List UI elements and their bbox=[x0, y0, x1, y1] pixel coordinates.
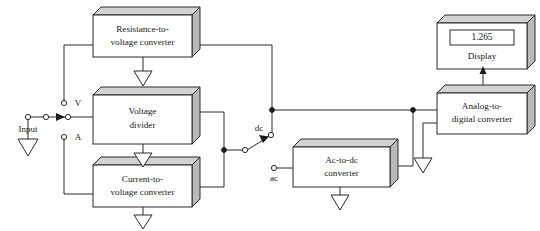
label-switch-ac: ac bbox=[270, 173, 278, 183]
display-reading: 1.265 bbox=[471, 32, 492, 42]
ac-contact[interactable] bbox=[271, 165, 276, 170]
block-label-line1: Voltage bbox=[129, 106, 157, 116]
junction-dot-divider-converter-merge bbox=[222, 148, 227, 153]
block-label-line2: converter bbox=[324, 168, 359, 178]
block-top-face bbox=[93, 7, 200, 15]
junction-dot-dc-bus bbox=[270, 108, 275, 113]
dc-ac-selector-switch[interactable] bbox=[242, 132, 276, 170]
wire-adc-ground-lead bbox=[423, 123, 437, 158]
label-input: Input bbox=[19, 124, 38, 134]
label-terminal-v: V bbox=[75, 98, 82, 108]
block-ac-to-dc-converter[interactable]: Ac-to-dc converter bbox=[293, 139, 398, 187]
junction-dot-acdc-bus bbox=[411, 108, 416, 113]
terminal-contact-a[interactable] bbox=[61, 134, 66, 139]
block-label-line2: divider bbox=[129, 120, 155, 130]
block-display[interactable]: 1.265 Display bbox=[437, 15, 535, 69]
multimeter-block-diagram: Resistance-to- voltage converter Voltage… bbox=[0, 0, 540, 231]
block-side-face bbox=[192, 87, 200, 144]
block-front-face bbox=[293, 147, 390, 187]
ground-symbol-input bbox=[18, 139, 38, 156]
block-front-face bbox=[93, 15, 192, 57]
ground-triangle bbox=[134, 215, 152, 229]
block-label-line2: voltage converter bbox=[110, 187, 174, 197]
block-side-face bbox=[192, 157, 200, 207]
block-top-face bbox=[437, 85, 535, 93]
ground-symbol-acdc-converter bbox=[331, 195, 349, 210]
selector-blade-arrow bbox=[56, 113, 65, 121]
block-voltage-divider[interactable]: Voltage divider bbox=[93, 87, 200, 144]
ground-symbol-adc bbox=[414, 158, 432, 173]
block-side-face bbox=[192, 7, 200, 57]
block-label-line1: Current-to- bbox=[122, 174, 163, 184]
ground-triangle bbox=[134, 71, 152, 86]
block-analog-to-digital-converter[interactable]: Analog-to- digital converter bbox=[437, 85, 535, 134]
selector-common-contact[interactable] bbox=[65, 114, 70, 119]
input-terminal-node[interactable] bbox=[25, 114, 30, 119]
block-side-face bbox=[527, 15, 535, 69]
block-top-face bbox=[293, 139, 398, 147]
block-label-line1: Resistance-to- bbox=[116, 24, 169, 34]
block-label-line1: Ac-to-dc bbox=[325, 155, 358, 165]
ground-symbol-current-converter bbox=[134, 215, 152, 229]
block-label-line2: voltage converter bbox=[110, 37, 174, 47]
display-label: Display bbox=[468, 51, 497, 61]
ground-triangle bbox=[414, 158, 432, 173]
block-top-face bbox=[93, 87, 200, 95]
diagram-canvas: Resistance-to- voltage converter Voltage… bbox=[0, 0, 540, 231]
ground-symbol-resistance-converter bbox=[134, 71, 152, 86]
block-current-to-voltage-converter[interactable]: Current-to- voltage converter bbox=[93, 157, 200, 207]
input-mid-node[interactable] bbox=[43, 114, 48, 119]
wire-v-to-resistance-converter bbox=[64, 45, 93, 105]
wire-resistance-out-to-bus bbox=[196, 45, 272, 110]
block-side-face bbox=[390, 139, 398, 187]
ground-triangle bbox=[331, 195, 349, 210]
dc-contact[interactable] bbox=[268, 132, 273, 137]
block-label-line2: digital converter bbox=[452, 114, 512, 124]
block-side-face bbox=[527, 85, 535, 134]
dcac-common-contact[interactable] bbox=[242, 147, 247, 152]
wire-a-to-current-converter bbox=[64, 139, 93, 194]
label-terminal-a: A bbox=[75, 132, 82, 142]
label-switch-dc: dc bbox=[255, 123, 264, 133]
terminal-contact-v[interactable] bbox=[61, 100, 66, 105]
ground-triangle bbox=[18, 139, 38, 156]
block-front-face bbox=[93, 165, 192, 207]
block-resistance-to-voltage-converter[interactable]: Resistance-to- voltage converter bbox=[93, 7, 200, 57]
block-top-face bbox=[437, 15, 535, 23]
block-label-line1: Analog-to- bbox=[462, 101, 502, 111]
